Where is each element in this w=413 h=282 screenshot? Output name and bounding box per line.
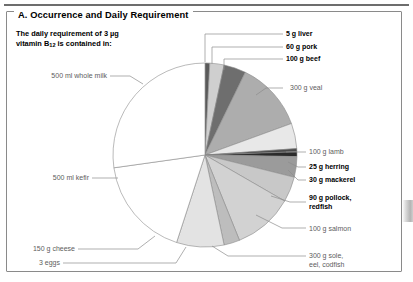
leader-cheese <box>78 236 155 249</box>
label-sole-line-2: eel, codfish <box>309 261 344 268</box>
leader-pork <box>212 47 283 64</box>
label-mackerel: 30 g mackerel <box>309 175 355 184</box>
pie-chart <box>0 0 413 282</box>
label-salmon: 100 g salmon <box>309 224 351 233</box>
label-herring: 25 g herring <box>309 162 349 171</box>
label-liver: 5 g liver <box>286 29 312 38</box>
label-sole: 300 g sole, eel, codfish <box>309 251 344 269</box>
pie-slice <box>113 63 205 168</box>
label-pollock: 90 g pollock, redfish <box>309 193 351 211</box>
label-lamb: 100 g lamb <box>309 147 344 156</box>
leader-eggs <box>63 247 186 263</box>
label-pollock-line-1: 90 g pollock, <box>309 194 351 201</box>
label-pollock-line-2: redfish <box>309 203 332 210</box>
leader-milk <box>110 76 143 84</box>
label-eggs: 3 eggs <box>0 258 60 267</box>
leader-liver <box>205 34 283 62</box>
page-edge-marker <box>402 200 413 222</box>
pie-slices <box>113 63 297 247</box>
label-veal: 300 g veal <box>290 83 322 92</box>
label-pork: 60 g pork <box>286 42 317 51</box>
leader-sole <box>212 246 306 256</box>
label-beef: 100 g beef <box>286 54 320 63</box>
label-kefir: 500 ml kefir <box>0 173 89 182</box>
label-cheese: 150 g cheese <box>0 244 75 253</box>
label-sole-line-1: 300 g sole, <box>309 252 343 259</box>
label-milk: 500 ml whole milk <box>0 71 107 80</box>
